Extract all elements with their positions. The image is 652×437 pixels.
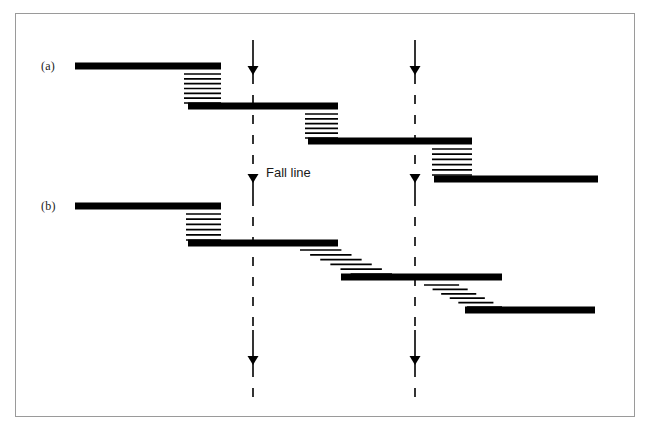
panel-b-bar-3	[465, 307, 595, 314]
panel-b-hatch-0	[186, 214, 221, 240]
fall-line-left	[248, 40, 259, 400]
figure-root: (a) (b) Fall line	[0, 0, 652, 437]
panel-b-bar-0	[75, 203, 221, 210]
fall-line-right-arrowhead-1	[410, 174, 421, 183]
fall-line-left-arrowhead-1	[248, 174, 259, 183]
fall-line-label: Fall line	[266, 165, 311, 180]
panel-b-hatch-2	[424, 285, 502, 307]
diagram-canvas	[0, 0, 652, 437]
panel-a-bar-1	[188, 103, 338, 110]
panel-label-a: (a)	[41, 59, 55, 74]
panel-b-hatch-1	[300, 250, 392, 274]
fall-line-left-arrowhead-0	[248, 66, 259, 75]
panel-a	[75, 63, 598, 183]
panel-b-bar-1	[188, 240, 338, 247]
panel-label-b: (b)	[41, 199, 56, 214]
panel-a-bar-0	[75, 63, 221, 70]
panel-a-hatch-0	[184, 74, 221, 103]
panel-b-bar-2	[341, 274, 502, 281]
fall-line-left-arrowhead-2	[248, 356, 259, 365]
panel-a-hatch-2	[432, 149, 472, 175]
panel-b	[75, 203, 595, 314]
panel-a-bar-2	[308, 138, 472, 145]
fall-line-right	[410, 40, 421, 400]
fall-line-right-arrowhead-0	[410, 66, 421, 75]
fall-line-right-arrowhead-2	[410, 356, 421, 365]
panel-a-hatch-1	[305, 114, 338, 138]
panel-a-bar-3	[434, 176, 598, 183]
